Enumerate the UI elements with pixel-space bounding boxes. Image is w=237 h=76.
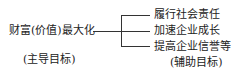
connector-main: [93, 31, 122, 32]
sub-goal-1: 履行社会责任: [154, 8, 220, 21]
main-goal-label: 财富(价值)最大化: [9, 24, 95, 37]
connector-branch-3: [121, 46, 150, 47]
main-goal-note: (主导目标): [23, 53, 76, 66]
connector-branch-2: [121, 31, 150, 32]
connector-branch-1: [121, 15, 150, 16]
sub-goal-3: 提高企业信誉等: [154, 40, 231, 53]
sub-goal-2: 加速企业成长: [154, 24, 220, 37]
sub-goal-note: (辅助目标): [170, 56, 223, 69]
